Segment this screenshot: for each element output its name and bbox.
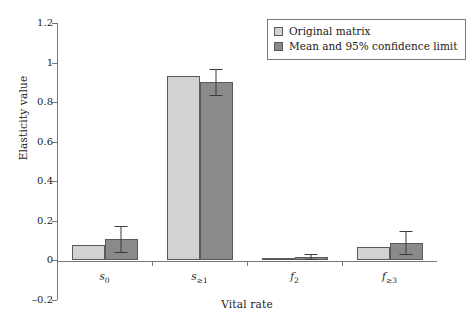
x-tick-label: s0 <box>99 270 109 285</box>
error-bar <box>390 231 423 255</box>
bar <box>167 76 200 260</box>
y-tick-label: 0.8 <box>37 95 53 108</box>
error-bar <box>295 254 328 259</box>
y-tick-label: 1 <box>47 56 53 69</box>
bar <box>357 247 390 261</box>
legend-swatch-original-matrix <box>274 27 283 36</box>
y-tick-label: 1.2 <box>37 16 53 29</box>
error-bar-cap-bottom <box>400 254 413 255</box>
error-bar-cap-bottom <box>305 259 318 260</box>
chart-legend: Original matrix Mean and 95% confidence … <box>267 19 466 60</box>
plot-area: 1.210.80.60.40.20–0.2 s0s≥1f2f≥3 <box>57 23 437 300</box>
error-bar-cap-top <box>305 254 318 255</box>
x-axis-title: Vital rate <box>57 298 437 310</box>
x-tick-label: f≥3 <box>382 270 397 285</box>
error-bar-line <box>121 226 122 252</box>
error-bar-line <box>406 231 407 255</box>
x-tick-label: s≥1 <box>191 270 207 285</box>
error-bar <box>105 226 138 252</box>
x-tick-label: f2 <box>290 270 299 285</box>
error-bar-cap-bottom <box>210 95 223 96</box>
legend-item-original-matrix: Original matrix <box>274 24 457 39</box>
bar <box>262 258 295 260</box>
y-axis-line <box>57 23 58 300</box>
error-bar-cap-top <box>115 226 128 227</box>
legend-label-original-matrix: Original matrix <box>289 25 371 38</box>
legend-label-mean-confidence: Mean and 95% confidence limit <box>289 40 457 53</box>
x-tick-mark <box>152 261 153 266</box>
legend-swatch-mean-confidence <box>274 42 283 51</box>
y-tick-label: 0 <box>47 253 53 266</box>
error-bar <box>200 69 233 95</box>
y-tick-label: 0.6 <box>37 135 53 148</box>
legend-item-mean-confidence: Mean and 95% confidence limit <box>274 39 457 54</box>
bar <box>72 245 105 261</box>
x-tick-mark <box>342 261 343 266</box>
y-axis-title: Elasticity value <box>17 48 29 188</box>
error-bar-cap-bottom <box>115 252 128 253</box>
error-bar-cap-top <box>210 69 223 70</box>
y-tick-label: 0.2 <box>37 214 53 227</box>
x-tick-mark <box>247 261 248 266</box>
y-tick-label: –0.2 <box>32 293 53 306</box>
y-tick-label: 0.4 <box>37 174 53 187</box>
error-bar-cap-top <box>400 231 413 232</box>
error-bar-line <box>216 69 217 95</box>
bar <box>200 82 233 260</box>
